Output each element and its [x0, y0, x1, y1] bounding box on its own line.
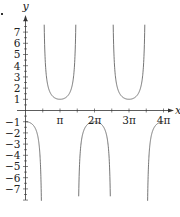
curve-branch-1	[44, 25, 76, 100]
y-tick-label: −2	[5, 127, 20, 139]
y-tick-label: −4	[5, 149, 21, 161]
y-tick-label: −7	[5, 183, 20, 195]
curve-branch-3	[113, 25, 145, 100]
stray-mark	[1, 13, 3, 15]
x-tick-label: 4π	[157, 114, 171, 126]
x-tick-label: π	[57, 114, 64, 126]
y-tick-label: 7	[14, 26, 21, 38]
y-axis-arrow-icon	[24, 15, 28, 21]
y-tick-label: −1	[5, 116, 20, 128]
y-tick-label: 5	[14, 48, 21, 60]
y-tick-label: 3	[14, 71, 21, 83]
y-tick-label: −5	[5, 160, 20, 172]
y-tick-label: −3	[5, 138, 20, 150]
tick-labels: 7654321−1−2−3−4−5−6−7π2π3π4πxy	[5, 0, 180, 195]
y-axis-label: y	[22, 0, 30, 13]
y-tick-label: 4	[14, 60, 21, 72]
y-tick-label: 6	[14, 37, 21, 49]
y-tick-label: 1	[14, 93, 21, 105]
y-tick-label: −6	[5, 172, 21, 184]
x-axis-label: x	[175, 104, 180, 117]
secant-plot: 7654321−1−2−3−4−5−6−7π2π3π4πxy	[0, 0, 180, 217]
curve-branch-2	[79, 122, 111, 197]
x-axis-arrow-icon	[168, 109, 174, 113]
x-tick-label: 2π	[88, 114, 102, 126]
y-tick-label: 2	[14, 82, 21, 94]
curve-branch-4	[148, 122, 164, 201]
x-tick-label: 3π	[122, 114, 136, 126]
